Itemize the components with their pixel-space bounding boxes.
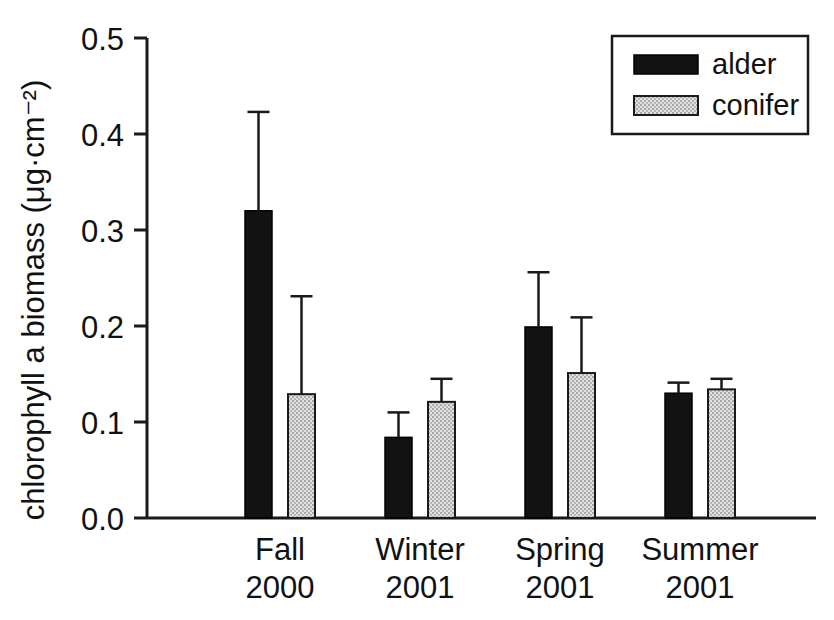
y-tick-label-0-3: 0.3 (81, 214, 124, 249)
bars-layer (245, 211, 735, 518)
bar-alder-winter-2001 (385, 437, 412, 518)
bar-chart-canvas: chlorophyll a biomass (μg·cm⁻²) 0.5 0.4 … (0, 0, 834, 620)
y-tick-labels: 0.5 0.4 0.3 0.2 0.1 0.0 (81, 22, 124, 537)
bar-alder-fall-2000 (245, 211, 272, 518)
bar-conifer-winter-2001 (428, 402, 455, 518)
error-bars-layer (248, 112, 733, 437)
legend: alder conifer (612, 36, 808, 134)
bar-conifer-fall-2000 (288, 394, 315, 518)
y-tick-label-0-2: 0.2 (81, 310, 124, 345)
x-label-spring-2001-line2: 2001 (526, 570, 595, 605)
bar-conifer-spring-2001 (568, 373, 595, 518)
x-label-summer-2001-line1: Summer (641, 532, 758, 567)
x-label-winter-2001-line1: Winter (375, 532, 465, 567)
y-tick-label-0-0: 0.0 (81, 502, 124, 537)
x-label-summer-2001-line2: 2001 (666, 570, 735, 605)
bar-alder-spring-2001 (525, 327, 552, 518)
x-category-labels: Fall2000Winter2001Spring2001Summer2001 (246, 532, 759, 605)
x-label-winter-2001-line2: 2001 (386, 570, 455, 605)
x-label-fall-2000-line2: 2000 (246, 570, 315, 605)
legend-swatch-conifer (634, 96, 698, 115)
y-axis-title: chlorophyll a biomass (μg·cm⁻²) (16, 80, 51, 520)
y-tick-label-0-1: 0.1 (81, 406, 124, 441)
chart-figure: chlorophyll a biomass (μg·cm⁻²) 0.5 0.4 … (0, 0, 834, 620)
bar-conifer-summer-2001 (708, 389, 735, 518)
y-tick-label-0-5: 0.5 (81, 22, 124, 57)
legend-label-alder: alder (712, 48, 777, 80)
y-tick-group (134, 38, 147, 518)
bar-alder-summer-2001 (665, 393, 692, 518)
x-label-spring-2001-line1: Spring (515, 532, 605, 567)
x-label-fall-2000-line1: Fall (255, 532, 305, 567)
legend-swatch-alder (634, 55, 698, 74)
y-tick-label-0-4: 0.4 (81, 118, 124, 153)
legend-label-conifer: conifer (712, 89, 799, 121)
